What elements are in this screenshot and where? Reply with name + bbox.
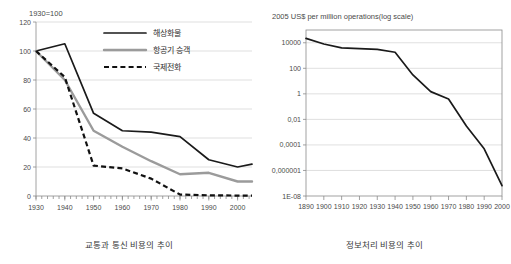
svg-text:100: 100 [19, 48, 31, 55]
svg-text:1990: 1990 [201, 204, 217, 211]
svg-text:100: 100 [289, 65, 301, 72]
svg-text:10000: 10000 [282, 39, 302, 46]
svg-text:1980: 1980 [172, 204, 188, 211]
series-line [36, 44, 252, 167]
right-chart-caption: 정보처리 비용의 추이 [258, 238, 511, 250]
svg-text:0,01: 0,01 [287, 116, 301, 123]
svg-text:60: 60 [23, 106, 31, 113]
svg-text:40: 40 [23, 135, 31, 142]
left-chart-caption: 교통과 통신 비용의 추이 [0, 238, 258, 250]
right-chart-plot: 1000010010,010,00010,0000011E-0818901900… [258, 0, 511, 230]
left-chart-plot: 0204060801001201930194019501960197019801… [0, 0, 258, 230]
svg-text:1940: 1940 [387, 203, 403, 210]
svg-text:1990: 1990 [476, 203, 492, 210]
svg-text:0: 0 [27, 193, 31, 200]
svg-text:1960: 1960 [115, 204, 131, 211]
svg-text:80: 80 [23, 77, 31, 84]
svg-text:1910: 1910 [334, 203, 350, 210]
svg-text:1900: 1900 [316, 203, 332, 210]
legend-label: 항공기 승객 [153, 45, 190, 55]
svg-text:1980: 1980 [459, 203, 475, 210]
svg-text:1E-08: 1E-08 [282, 193, 301, 200]
legend-label: 국제전화 [153, 62, 182, 72]
svg-text:1940: 1940 [57, 204, 73, 211]
svg-text:0,000001: 0,000001 [272, 167, 301, 174]
svg-text:2000: 2000 [230, 204, 246, 211]
svg-text:1930: 1930 [28, 204, 44, 211]
right-chart-panel: 2005 US$ per million operations(log scal… [258, 0, 511, 264]
svg-text:1950: 1950 [86, 204, 102, 211]
svg-text:2000: 2000 [494, 203, 510, 210]
svg-text:1890: 1890 [298, 203, 314, 210]
svg-text:1: 1 [297, 90, 301, 97]
svg-text:1970: 1970 [441, 203, 457, 210]
svg-text:1970: 1970 [143, 204, 159, 211]
legend-label: 해상화물 [153, 28, 181, 38]
svg-text:1960: 1960 [423, 203, 439, 210]
svg-text:1920: 1920 [352, 203, 368, 210]
series-line [306, 38, 502, 185]
figure-bottom-cut-text [0, 257, 511, 264]
svg-text:0,0001: 0,0001 [280, 141, 302, 148]
svg-text:20: 20 [23, 164, 31, 171]
left-chart-panel: 1930=100 0204060801001201930194019501960… [0, 0, 258, 264]
svg-text:1950: 1950 [405, 203, 421, 210]
svg-text:1930: 1930 [369, 203, 385, 210]
series-line [36, 51, 252, 196]
svg-text:120: 120 [19, 19, 31, 26]
figure-root: 1930=100 0204060801001201930194019501960… [0, 0, 511, 264]
